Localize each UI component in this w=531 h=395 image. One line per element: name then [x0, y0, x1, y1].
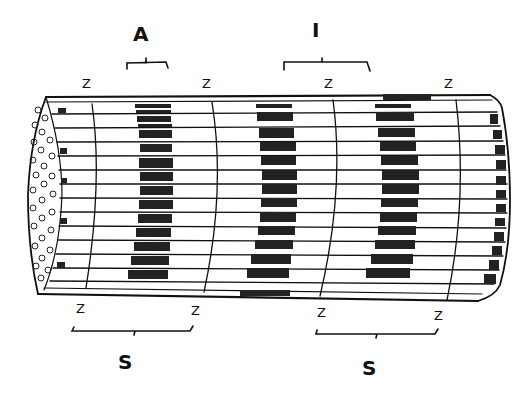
a-band-right [366, 94, 431, 278]
fiber-drawing [0, 0, 531, 395]
cross-section-texture [30, 107, 56, 281]
a-band-bracket [127, 58, 168, 69]
fiber-top-edge-inner [46, 100, 492, 102]
muscle-fiber-diagram: A I Z Z Z Z Z Z Z Z S S [0, 0, 531, 395]
i-band-label: I [312, 18, 319, 42]
a-band-middle [240, 104, 297, 296]
i-band-bracket [284, 58, 370, 71]
a-band-left [128, 104, 173, 279]
z-label-top-3: Z [324, 76, 333, 91]
z-label-bottom-2: Z [191, 303, 200, 318]
a-band-label: A [133, 22, 148, 46]
z-label-bottom-3: Z [317, 305, 326, 320]
z-label-top-2: Z [202, 76, 211, 91]
sarcomere-label-right: S [362, 356, 376, 380]
sarcomere-bracket-left [72, 326, 193, 335]
z-label-bottom-1: Z [76, 301, 85, 316]
z-label-top-1: Z [82, 76, 91, 91]
z-label-top-4: Z [444, 76, 453, 91]
z-label-bottom-4: Z [434, 308, 443, 323]
sarcomere-bracket-right [316, 329, 438, 338]
sarcomere-label-left: S [118, 350, 132, 374]
